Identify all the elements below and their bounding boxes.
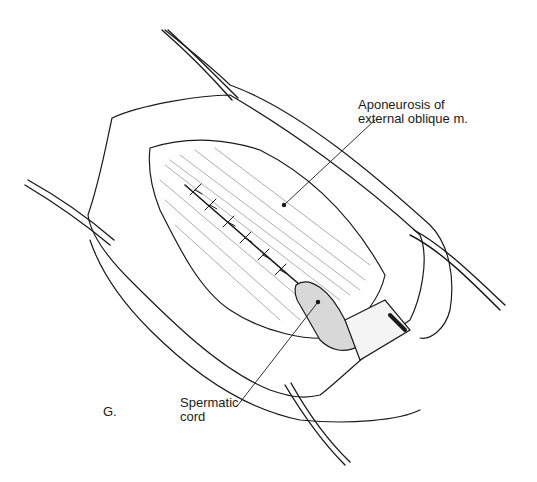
retractor-left xyxy=(25,185,110,245)
cord-sleeve xyxy=(345,300,410,360)
label-aponeurosis-line2: external oblique m. xyxy=(358,112,468,126)
illustration-drawing xyxy=(0,0,537,482)
suture-line xyxy=(185,185,300,285)
spermatic-cord-shape xyxy=(295,282,360,351)
panel-letter: G. xyxy=(103,405,117,419)
retractor-top xyxy=(162,30,232,100)
label-spermatic-cord: Spermatic cord xyxy=(180,396,239,424)
leader-aponeurosis xyxy=(284,120,375,205)
label-spermatic-line2: cord xyxy=(180,410,239,424)
retractor-bottom xyxy=(285,385,345,465)
label-spermatic-line1: Spermatic xyxy=(180,396,239,410)
label-aponeurosis: Aponeurosis of external oblique m. xyxy=(358,98,468,126)
label-aponeurosis-line1: Aponeurosis of xyxy=(358,98,468,112)
aponeurosis-fibers xyxy=(160,148,370,320)
surgical-illustration: Aponeurosis of external oblique m. Sperm… xyxy=(0,0,537,482)
leader-spermatic xyxy=(238,302,318,405)
